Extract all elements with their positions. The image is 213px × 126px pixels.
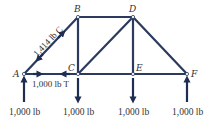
- joint-f: [185, 72, 188, 75]
- load-c-label: 1,000 lb: [63, 107, 94, 117]
- member-cd: [78, 17, 133, 74]
- load-f-label: 1,000 lb: [172, 107, 203, 117]
- joint-label-c: C: [68, 63, 75, 73]
- truss-diagram: A B C D E F 1,414 lb C 1,000 lb T 1,000 …: [0, 0, 213, 126]
- joint-label-a: A: [12, 69, 20, 79]
- joint-label-e: E: [135, 63, 143, 73]
- joint-label-f: F: [190, 69, 198, 79]
- joint-e: [131, 72, 134, 75]
- joint-a: [22, 72, 25, 75]
- joint-label-d: D: [128, 4, 136, 14]
- load-e-label: 1,000 lb: [118, 107, 149, 117]
- joint-b: [76, 15, 79, 18]
- member-ac-force-label: 1,000 lb T: [32, 79, 70, 89]
- member-ab-force-label: 1,414 lb C: [31, 24, 64, 58]
- joint-c: [76, 72, 79, 75]
- joint-d: [131, 15, 134, 18]
- load-a-label: 1,000 lb: [9, 107, 40, 117]
- joint-label-b: B: [73, 4, 81, 14]
